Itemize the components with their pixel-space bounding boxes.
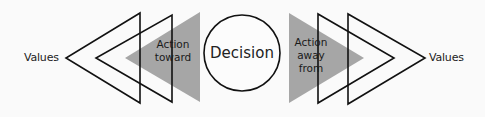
action-away-line1: Action — [289, 36, 333, 49]
right-values-label: Values — [429, 51, 464, 64]
left-values-label: Values — [24, 51, 59, 64]
action-away-line3: from — [289, 62, 333, 75]
action-toward-line1: Action — [148, 38, 198, 51]
action-away-line2: away — [289, 49, 333, 62]
action-away-label: Action away from — [289, 36, 333, 75]
action-toward-line2: toward — [148, 51, 198, 64]
action-toward-label: Action toward — [148, 38, 198, 64]
decision-label: Decision — [204, 44, 280, 62]
